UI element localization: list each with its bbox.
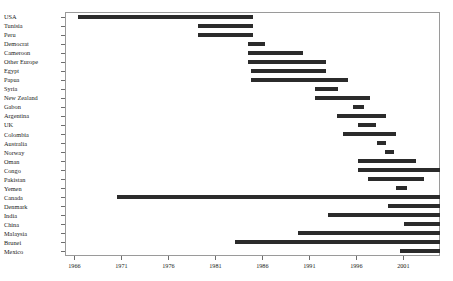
gantt-bar [78,15,253,19]
category-label: Argentina [0,112,57,119]
category-axis-labels: USATunisiaPeruDemocratCameroonOther Euro… [0,12,61,256]
x-axis-tick-label: 1971 [115,262,127,270]
category-label: Denmark [0,203,57,210]
x-axis-tick [168,256,169,260]
gantt-bar [235,240,440,244]
gantt-bar [248,42,265,46]
x-axis-tick-label: 1986 [256,262,268,270]
y-axis-tick [61,17,65,18]
gantt-bar [368,177,424,181]
gantt-bar [404,222,440,226]
category-label: Colombia [0,131,57,138]
y-axis-tick [61,206,65,207]
y-axis-tick [61,197,65,198]
category-label: Egypt [0,67,57,74]
x-axis-tick [215,256,216,260]
gantt-bar [358,168,440,172]
category-label: UK [0,121,57,128]
y-axis-tick [61,215,65,216]
gantt-bar [248,51,303,55]
category-label: Syria [0,85,57,92]
y-axis-tick [61,26,65,27]
gantt-bar [396,186,407,190]
gantt-bar [328,213,440,217]
y-axis-tick [61,35,65,36]
gantt-bar [400,249,440,253]
category-label: China [0,221,57,228]
category-label: Cameroon [0,49,57,56]
y-axis-tick [61,188,65,189]
category-label: Canada [0,194,57,201]
y-axis-tick [61,116,65,117]
y-axis-tick [61,62,65,63]
category-label: Norway [0,149,57,156]
gantt-bar [251,78,348,82]
category-label: Pakistan [0,176,57,183]
category-label: Peru [0,31,57,38]
gantt-bar [248,60,326,64]
category-label: Democrat [0,40,57,47]
y-axis-tick [61,143,65,144]
y-axis-tick [61,89,65,90]
gantt-bar [385,150,394,154]
category-label: Brunei [0,239,57,246]
y-axis-tick [61,125,65,126]
gantt-bar [198,33,253,37]
category-label: USA [0,13,57,20]
gantt-bar [315,87,338,91]
y-axis-tick [61,233,65,234]
x-axis-tick [262,256,263,260]
category-label: Tunisia [0,22,57,29]
x-axis-tick-label: 2001 [397,262,409,270]
x-axis-tick-label: 1991 [303,262,315,270]
x-axis-tick-label: 1966 [68,262,80,270]
category-label: Oman [0,158,57,165]
gantt-bar [358,123,376,127]
gantt-bar [337,114,387,118]
category-label: India [0,212,57,219]
gantt-bar [117,195,440,199]
y-axis-tick [61,152,65,153]
category-label: Congo [0,167,57,174]
gantt-chart: USATunisiaPeruDemocratCameroonOther Euro… [0,0,453,281]
category-label: New Zealand [0,94,57,101]
y-axis-tick [61,242,65,243]
y-axis-tick [61,107,65,108]
category-label: Gabon [0,103,57,110]
x-axis-tick [403,256,404,260]
y-axis-tick [61,53,65,54]
x-axis-tick [309,256,310,260]
gantt-bar [377,141,386,145]
gantt-bar [315,96,370,100]
y-axis-tick [61,179,65,180]
category-label: Other Europe [0,58,57,65]
gantt-bar [353,105,364,109]
y-axis-tick [61,251,65,252]
category-label: Australia [0,140,57,147]
gantt-bar [198,24,253,28]
plot-area [65,12,440,256]
x-axis-tick [121,256,122,260]
y-axis-tick [61,98,65,99]
y-axis-tick [61,161,65,162]
category-label: Papua [0,76,57,83]
x-axis-tick-label: 1996 [350,262,362,270]
category-label: Yemen [0,185,57,192]
category-label: Malaysia [0,230,57,237]
y-axis-tick [61,224,65,225]
y-axis-tick [61,80,65,81]
x-axis-tick-label: 1981 [209,262,221,270]
y-axis-tick [61,134,65,135]
y-axis-tick [61,44,65,45]
x-axis-tick [356,256,357,260]
gantt-bar [358,159,415,163]
gantt-bar [298,231,440,235]
x-axis-tick [74,256,75,260]
y-axis-tick [61,71,65,72]
category-label: Mexico [0,248,57,255]
x-axis-tick-label: 1976 [162,262,174,270]
gantt-bar [251,69,326,73]
gantt-bar [343,132,396,136]
gantt-bar [388,204,440,208]
y-axis-tick [61,170,65,171]
